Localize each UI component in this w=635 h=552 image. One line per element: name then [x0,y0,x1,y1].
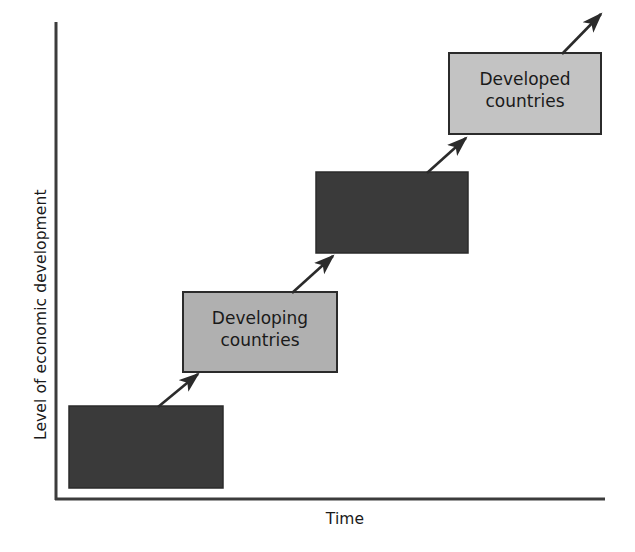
step-box-4-developed [449,53,601,134]
economic-development-staircase-diagram: Developing countries Developed countries… [0,0,635,552]
y-axis-label: Level of economic development [32,189,50,440]
step-box-2-developing [183,292,337,372]
step-box-3-dark [316,172,468,253]
arrow-step1-to-step2 [158,374,198,407]
arrow-step3-to-step4 [427,138,466,173]
arrow-growth-continues [562,14,601,54]
step-box-1-dark [69,406,223,488]
arrow-step2-to-step3 [292,256,333,293]
diagram-canvas [0,0,635,552]
x-axis-label: Time [0,510,635,528]
